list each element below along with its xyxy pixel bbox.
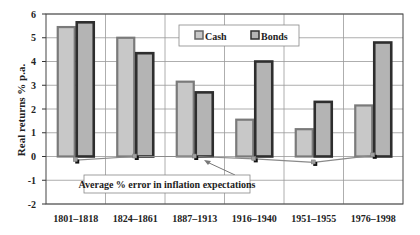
arrowhead-icon: [204, 160, 211, 165]
bar-cash: [236, 120, 253, 157]
legend-bonds-swatch: [251, 31, 259, 39]
legend-cash-label: Cash: [205, 31, 227, 42]
legend-cash-swatch: [195, 31, 203, 39]
x-category-label: 1801–1818: [53, 213, 98, 224]
y-tick-label: 1: [31, 127, 36, 138]
y-tick-label: 3: [31, 80, 36, 91]
bar-bonds: [255, 62, 272, 157]
bar-cash: [296, 129, 313, 156]
bar-chart: -2-10123456 1801–18181824–18611887–19131…: [0, 0, 420, 235]
bar-bonds: [374, 43, 391, 157]
y-tick-labels: -2-10123456: [28, 9, 36, 210]
y-axis-label: Real returns % p.a.: [15, 64, 27, 157]
annotation-arrow: [207, 162, 235, 175]
y-tick-label: 6: [31, 9, 36, 20]
x-category-label: 1887–1913: [172, 213, 217, 224]
y-tick-label: 0: [31, 151, 36, 162]
error-marker: [73, 158, 77, 162]
x-category-labels: 1801–18181824–18611887–19131916–19401951…: [53, 213, 396, 224]
y-tick-label: 5: [31, 32, 36, 43]
x-category-label: 1824–1861: [113, 213, 158, 224]
bar-bonds: [77, 22, 94, 156]
bar-cash: [177, 82, 194, 157]
bar-bonds: [136, 53, 153, 156]
annotation-text: Average % error in inflation expectation…: [79, 179, 256, 190]
y-tick-label: 4: [31, 56, 36, 67]
x-category-label: 1951–1955: [291, 213, 336, 224]
error-marker: [371, 153, 375, 157]
x-category-label: 1916–1940: [232, 213, 277, 224]
y-tick-label: -1: [28, 175, 36, 186]
y-tick-label: -2: [28, 199, 36, 210]
legend: Cash Bonds: [179, 25, 299, 46]
error-marker: [192, 154, 196, 158]
bar-bonds: [315, 102, 332, 157]
bar-cash: [58, 27, 75, 156]
error-marker: [252, 156, 256, 160]
error-marker: [133, 154, 137, 158]
annotation: Average % error in inflation expectation…: [79, 160, 256, 193]
y-tick-label: 2: [31, 104, 36, 115]
legend-bonds-label: Bonds: [261, 31, 288, 42]
bar-bonds: [196, 92, 213, 156]
bar-cash: [355, 105, 372, 156]
bar-cash: [117, 38, 134, 157]
x-category-label: 1976–1998: [351, 213, 396, 224]
error-marker: [311, 160, 315, 164]
